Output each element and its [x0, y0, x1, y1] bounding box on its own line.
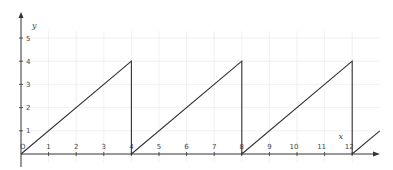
y-axis-label: y — [31, 21, 37, 30]
y-tick-label: 1 — [26, 127, 30, 135]
sawtooth-chart: 12345678910111212345 x y O — [0, 0, 393, 170]
x-tick-label: 9 — [267, 143, 271, 151]
x-tick-label: 5 — [157, 143, 161, 151]
y-tick-label: 2 — [26, 104, 30, 112]
y-tick-label: 5 — [26, 35, 30, 43]
x-tick-label: 11 — [317, 143, 326, 151]
x-tick-label: 6 — [184, 143, 189, 151]
y-axis-arrow-icon — [19, 12, 24, 18]
x-axis-label: x — [338, 132, 343, 141]
x-tick-label: 7 — [212, 143, 216, 151]
origin-label: O — [20, 143, 26, 151]
y-tick-label: 4 — [26, 58, 31, 66]
y-tick-label: 3 — [26, 81, 30, 89]
x-tick-label: 10 — [290, 143, 299, 151]
x-tick-label: 1 — [46, 143, 50, 151]
x-axis-arrow-icon — [373, 152, 380, 157]
x-tick-label: 2 — [74, 143, 78, 151]
x-tick-label: 3 — [102, 143, 106, 151]
